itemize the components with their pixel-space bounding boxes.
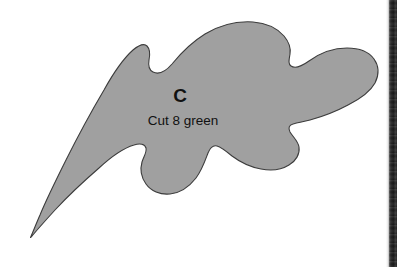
pattern-sheet: C Cut 8 green [0, 0, 397, 267]
pattern-piece-shape-c [31, 22, 378, 238]
pattern-piece-illustration: C Cut 8 green [0, 0, 397, 267]
piece-cut-instruction: Cut 8 green [148, 113, 219, 128]
page-edge-shadow-strip [389, 0, 397, 267]
piece-letter-label: C [173, 85, 187, 106]
